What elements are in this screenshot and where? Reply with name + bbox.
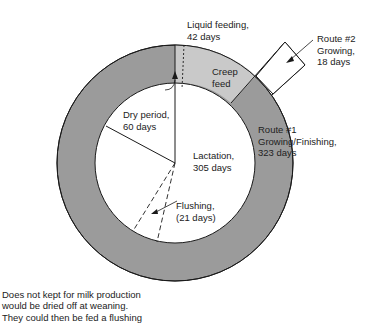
route-1-label: Route #1 Growing/Finishing, 323 days <box>258 124 337 159</box>
flushing-label: Flushing, (21 days) <box>176 200 216 223</box>
lactation-label: Lactation, 305 days <box>193 150 234 173</box>
liquid-feeding-label: Liquid feeding, 42 days <box>187 19 249 42</box>
footnote-text: Does not kept for milk production would … <box>2 289 142 323</box>
route-2-pointer <box>290 40 313 60</box>
route-2-label: Route #2 Growing, 18 days <box>317 33 356 68</box>
dry-period-label: Dry period, 60 days <box>123 109 169 132</box>
creep-feed-label: Creep feed <box>212 66 238 89</box>
